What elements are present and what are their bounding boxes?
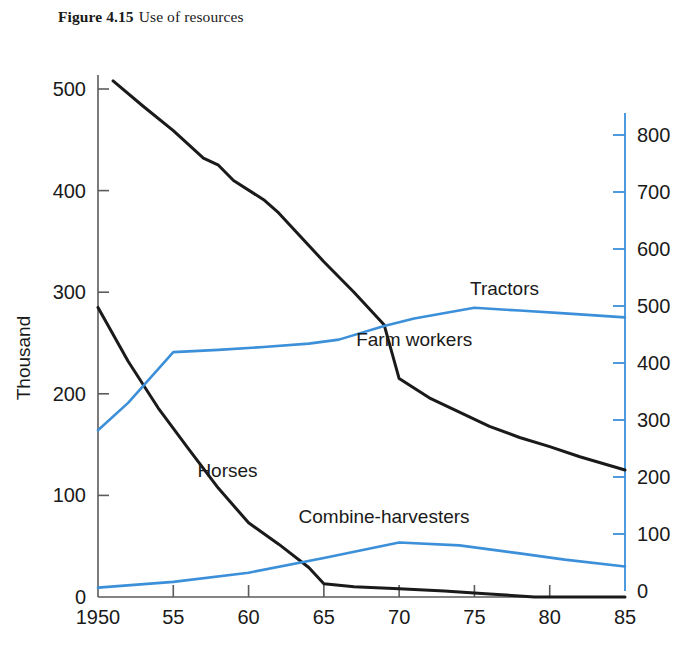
right-axis-tick-label: 400 <box>637 352 670 374</box>
series-label-horses: Horses <box>197 460 257 481</box>
left-axis-tick-label: 300 <box>53 281 86 303</box>
right-axis-tick-label: 500 <box>637 295 670 317</box>
series-label-tractors: Tractors <box>470 278 539 299</box>
x-axis-tick-label: 75 <box>463 606 485 628</box>
x-axis-tick-label: 80 <box>539 606 561 628</box>
right-axis-tick-label: 300 <box>637 409 670 431</box>
series-label-combine-harvesters: Combine-harvesters <box>299 506 470 527</box>
x-axis-tick-label: 1950 <box>76 606 121 628</box>
right-axis-tick-label: 700 <box>637 181 670 203</box>
right-axis-tick-label: 600 <box>637 238 670 260</box>
left-axis-tick-label: 500 <box>53 78 86 100</box>
left-axis-title: Thousand <box>13 316 34 401</box>
left-axis-tick-label: 400 <box>53 180 86 202</box>
series-line-combine-harvesters <box>98 543 625 588</box>
x-axis-tick-label: 60 <box>237 606 259 628</box>
x-axis-tick-label: 85 <box>614 606 636 628</box>
series-line-tractors <box>98 308 625 431</box>
figure-container: Figure 4.15Use of resources 010020030040… <box>0 0 697 652</box>
right-axis-tick-label: 100 <box>637 523 670 545</box>
left-axis-tick-label: 0 <box>75 586 86 608</box>
x-axis-tick-label: 65 <box>313 606 335 628</box>
right-axis-tick-label: 0 <box>637 580 648 602</box>
x-axis-tick-label: 70 <box>388 606 410 628</box>
x-axis-tick-label: 55 <box>162 606 184 628</box>
series-line-farm-workers <box>113 81 625 470</box>
right-axis-tick-label: 800 <box>637 124 670 146</box>
line-chart: 0100200300400500010020030040050060070080… <box>0 0 697 652</box>
left-axis-tick-label: 100 <box>53 484 86 506</box>
left-axis-tick-label: 200 <box>53 383 86 405</box>
right-axis-tick-label: 200 <box>637 466 670 488</box>
series-label-farm-workers: Farm workers <box>356 329 472 350</box>
